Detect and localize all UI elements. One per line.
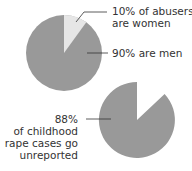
- label-unreported-line3: unreported: [5, 149, 78, 161]
- label-women-line1: 10% of abusers: [112, 5, 192, 17]
- label-women-line2: are women: [112, 17, 192, 29]
- pie-unreported: [86, 82, 175, 158]
- label-unreported-line2: rape cases go: [5, 137, 78, 149]
- label-unreported-line1: of childhood: [5, 125, 78, 137]
- label-unreported: 88% of childhood rape cases go unreporte…: [5, 113, 78, 161]
- label-unreported-pct: 88%: [5, 113, 78, 125]
- label-women: 10% of abusers are women: [112, 5, 192, 29]
- pie-abusers-gender: [26, 12, 108, 91]
- slice-unreported: [99, 82, 175, 158]
- label-men: 90% are men: [112, 47, 182, 59]
